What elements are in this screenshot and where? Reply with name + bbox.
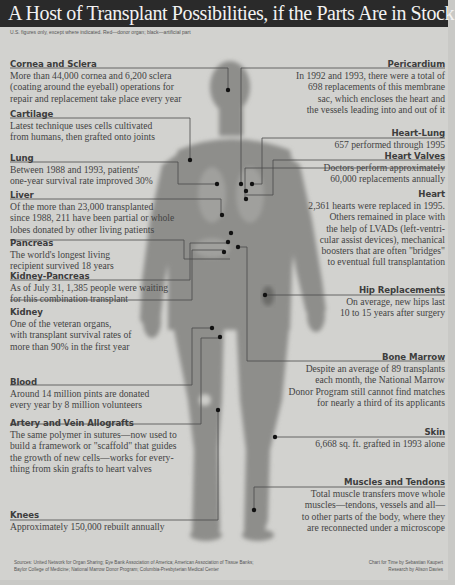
callout-text: One of the veteran organs, with transpla… <box>10 318 132 352</box>
callout-text: 6,668 sq. ft. grafted in 1993 alone <box>315 438 445 449</box>
callout-artery-vein: Artery and Vein Allografts The same poly… <box>10 418 177 474</box>
callout-bone-marrow: Bone Marrow Despite an average of 89 tra… <box>289 352 445 408</box>
callout-heading: Blood <box>10 377 149 388</box>
callout-knees: Knees Approximately 150,000 rebuilt annu… <box>10 510 165 532</box>
callout-pancreas: Pancreas The world's longest living reci… <box>10 238 114 272</box>
callout-text: On average, new hips last 10 to 15 years… <box>340 296 445 319</box>
callout-text: 657 performed through 1995 <box>334 139 445 150</box>
callout-text: In 1992 and 1993, there were a total of … <box>296 70 445 115</box>
callout-heart-lung: Heart-Lung 657 performed through 1995 <box>334 128 445 150</box>
callout-cornea-sclera: Cornea and Sclera More than 44,000 corne… <box>10 59 182 104</box>
callout-text: Doctors perform approximately 60,000 rep… <box>324 162 445 185</box>
callout-text: Between 1988 and 1993, patients' one-yea… <box>10 164 153 187</box>
callout-pericardium: Pericardium In 1992 and 1993, there were… <box>296 59 445 115</box>
callout-heading: Heart-Lung <box>334 128 445 139</box>
callout-heading: Artery and Vein Allografts <box>10 418 177 429</box>
callout-heading: Hip Replacements <box>340 285 445 296</box>
callout-heading: Cartilage <box>10 109 155 120</box>
callout-heading: Bone Marrow <box>289 352 445 363</box>
callout-heading: Liver <box>10 190 174 201</box>
callout-blood: Blood Around 14 million pints are donate… <box>10 377 149 411</box>
callout-text: The same polymer in sutures—now used to … <box>10 429 177 474</box>
callout-heading: Kidney-Pancreas <box>10 271 168 282</box>
callout-heading: Pericardium <box>296 59 445 70</box>
callout-text: More than 44,000 cornea and 6,200 sclera… <box>10 70 182 104</box>
callout-text: Around 14 million pints are donated ever… <box>10 388 149 411</box>
callout-text: 2,361 hearts were replaced in 1995. Othe… <box>308 200 445 268</box>
callout-heart: Heart 2,361 hearts were replaced in 1995… <box>308 189 445 268</box>
callout-heading: Cornea and Sclera <box>10 59 182 70</box>
callout-heading: Knees <box>10 510 165 521</box>
callout-heart-valves: Heart Valves Doctors perform approximate… <box>324 151 445 185</box>
callout-heading: Muscles and Tendons <box>302 477 445 488</box>
callout-text: Approximately 150,000 rebuilt annually <box>10 521 165 532</box>
credits-note: Chart for Time by Sebastian Kaupert Rese… <box>369 559 443 573</box>
callout-kidney-pancreas: Kidney-Pancreas As of July 31, 1,385 peo… <box>10 271 168 305</box>
callout-skin: Skin 6,668 sq. ft. grafted in 1993 alone <box>315 427 445 449</box>
callout-heading: Heart <box>308 189 445 200</box>
callout-text: Despite an average of 89 transplants eac… <box>289 363 445 408</box>
callout-text: Of the more than 23,000 transplanted sin… <box>10 201 174 235</box>
callout-text: Latest technique uses cells cultivated f… <box>10 120 155 143</box>
callout-heading: Lung <box>10 153 153 164</box>
callout-cartilage: Cartilage Latest technique uses cells cu… <box>10 109 155 143</box>
callout-lung: Lung Between 1988 and 1993, patients' on… <box>10 153 153 187</box>
callout-text: Total muscle transfers move whole muscle… <box>302 488 445 533</box>
callout-muscles-tendons: Muscles and Tendons Total muscle transfe… <box>302 477 445 533</box>
callout-heading: Heart Valves <box>324 151 445 162</box>
callout-kidney: Kidney One of the veteran organs, with t… <box>10 307 132 352</box>
sources-note: Sources: United Network for Organ Sharin… <box>14 559 254 573</box>
callout-hip-replacements: Hip Replacements On average, new hips la… <box>340 285 445 319</box>
callout-liver: Liver Of the more than 23,000 transplant… <box>10 190 174 235</box>
callout-heading: Pancreas <box>10 238 114 249</box>
callout-heading: Kidney <box>10 307 132 318</box>
callout-text: The world's longest living recipient sur… <box>10 249 114 272</box>
callout-heading: Skin <box>315 427 445 438</box>
callout-text: As of July 31, 1,385 people were waiting… <box>10 282 168 305</box>
